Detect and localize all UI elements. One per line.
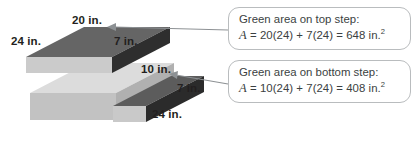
top-step-front-face <box>26 57 112 73</box>
dimension-label-bottom-height: 7 in. <box>177 82 201 94</box>
callout-bottom-step-equals: = <box>250 82 257 94</box>
bottom-step-front-face <box>113 106 146 122</box>
callout-top-step-formula: A = 20(24) + 7(24) = 648 in.2 <box>239 28 401 44</box>
dimension-label-bottom-length: 10 in. <box>141 63 171 75</box>
callout-bottom-step-heading: Green area on bottom step: <box>239 65 401 81</box>
callout-top-step-expression: 20(24) + 7(24) = 648 in. <box>260 29 381 41</box>
callout-bottom-step-variable: A <box>239 81 247 95</box>
callout-bottom-step-expression: 10(24) + 7(24) = 408 in. <box>260 82 381 94</box>
callout-top-step-exponent: 2 <box>381 27 385 36</box>
callout-box-top-step: Green area on top step: A = 20(24) + 7(2… <box>228 7 411 50</box>
dimension-label-top-length: 20 in. <box>72 14 102 26</box>
callout-top-step-heading: Green area on top step: <box>239 12 401 28</box>
callout-box-bottom-step: Green area on bottom step: A = 10(24) + … <box>228 60 411 103</box>
base-slab-front-face <box>30 93 116 120</box>
dimension-label-top-height: 7 in. <box>114 35 138 47</box>
figure-canvas: 20 in. 24 in. 7 in. 10 in. 7 in. 24 in. … <box>0 0 414 141</box>
callout-top-step-equals: = <box>250 29 257 41</box>
dimension-label-bottom-depth: 24 in. <box>152 108 182 120</box>
callout-bottom-step-exponent: 2 <box>381 80 385 89</box>
callout-bottom-step-formula: A = 10(24) + 7(24) = 408 in.2 <box>239 81 401 97</box>
dimension-label-top-depth: 24 in. <box>11 35 41 47</box>
callout-top-step-variable: A <box>239 28 247 42</box>
